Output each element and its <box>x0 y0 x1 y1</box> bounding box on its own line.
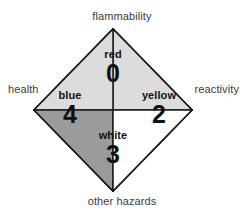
axis-label-reactivity: reactivity <box>195 84 239 95</box>
quadrant-health-final <box>34 110 113 191</box>
axis-label-other-hazards: other hazards <box>0 196 244 207</box>
quadrant-flam-right <box>113 29 192 110</box>
nfpa-hazard-diamond-figure: flammability health reactivity other haz… <box>0 0 244 217</box>
axis-label-flammability: flammability <box>0 11 244 22</box>
quadrant-flam-left <box>34 29 113 110</box>
diamond-svg <box>33 28 193 192</box>
quadrant-final <box>34 29 192 191</box>
diamond-shape <box>33 28 193 192</box>
quadrant-reactivity-final <box>113 110 192 191</box>
